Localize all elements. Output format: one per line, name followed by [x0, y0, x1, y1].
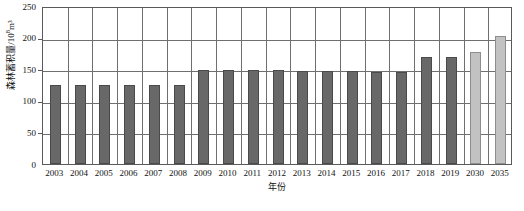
bar-2014: [322, 71, 333, 164]
gridline-x-3: [117, 8, 118, 164]
bar-2010: [223, 70, 234, 164]
bar-2017: [396, 72, 407, 164]
gridline-x-9: [266, 8, 267, 164]
bar-2011: [248, 70, 259, 164]
bar-2004: [75, 85, 86, 164]
forest-stock-volume-bar-chart: 森林蓄积量/108m³ 050100150200250 200320042005…: [0, 0, 524, 211]
gridline-x-4: [142, 8, 143, 164]
y-tick-label-150: 150: [2, 66, 36, 75]
gridline-x-15: [414, 8, 415, 164]
y-axis-title-exponent: 8: [4, 30, 11, 33]
gridline-x-16: [439, 8, 440, 164]
y-tick-label-250: 250: [2, 3, 36, 12]
gridline-x-18: [488, 8, 489, 164]
gridline-x-17: [464, 8, 465, 164]
bar-2035: [495, 36, 506, 164]
gridline-x-8: [241, 8, 242, 164]
plot-area: [42, 7, 512, 165]
gridline-x-7: [216, 8, 217, 164]
bar-2009: [198, 70, 209, 164]
bar-2012: [273, 70, 284, 164]
y-tick-label-200: 200: [2, 34, 36, 43]
gridline-x-14: [389, 8, 390, 164]
gridline-x-10: [290, 8, 291, 164]
bar-2003: [50, 85, 61, 164]
bar-2006: [124, 85, 135, 164]
bar-2019: [446, 57, 457, 164]
gridline-x-11: [315, 8, 316, 164]
y-axis-title-unit: m³: [6, 20, 16, 30]
bar-2005: [99, 85, 110, 164]
y-tick-label-100: 100: [2, 97, 36, 106]
bar-2016: [371, 72, 382, 164]
gridline-y-200: [43, 40, 511, 41]
bar-2007: [149, 85, 160, 164]
gridline-x-1: [68, 8, 69, 164]
bar-2013: [297, 71, 308, 164]
gridline-x-6: [191, 8, 192, 164]
gridline-x-2: [92, 8, 93, 164]
gridline-x-13: [365, 8, 366, 164]
bar-2008: [174, 85, 185, 164]
x-tick-label-2035: 2035: [480, 168, 520, 178]
bar-2015: [347, 71, 358, 164]
y-tick-label-50: 50: [2, 129, 36, 138]
y-tick-label-0: 0: [2, 161, 36, 170]
gridline-x-12: [340, 8, 341, 164]
bar-2018: [421, 57, 432, 164]
gridline-x-5: [167, 8, 168, 164]
bar-2030: [470, 52, 481, 164]
x-axis-title: 年份: [237, 182, 317, 192]
plot-inner: [43, 8, 511, 164]
